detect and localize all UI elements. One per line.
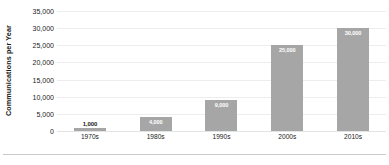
bar-value-label: 30,000 bbox=[345, 30, 362, 36]
y-axis-tick-label: 15,000 bbox=[33, 76, 54, 83]
x-axis-tick-label: 1990s bbox=[189, 133, 255, 147]
bar-slot: 30,000 bbox=[320, 0, 386, 131]
bar-value-label: 1,000 bbox=[83, 121, 98, 127]
bar[interactable]: 4,000 bbox=[140, 117, 172, 131]
bar-slot: 25,000 bbox=[254, 0, 320, 131]
y-axis-tick-label: 35,000 bbox=[33, 8, 54, 15]
plot-area: 1,0004,0009,00025,00030,000 bbox=[57, 0, 386, 131]
y-axis-tick-label: 5,000 bbox=[36, 110, 54, 117]
bar-slot: 4,000 bbox=[123, 0, 189, 131]
y-axis-tick-label: 10,000 bbox=[33, 93, 54, 100]
y-axis-tick-label: 0 bbox=[50, 128, 54, 135]
x-axis-tick-label: 1970s bbox=[57, 133, 123, 147]
x-axis-tick-label: 1980s bbox=[123, 133, 189, 147]
bar-value-label: 4,000 bbox=[149, 119, 163, 125]
bar[interactable]: 1,000 bbox=[74, 128, 106, 131]
y-axis-tick-label: 30,000 bbox=[33, 25, 54, 32]
bar[interactable]: 25,000 bbox=[271, 45, 303, 131]
bottom-divider bbox=[3, 154, 386, 155]
bar-value-label: 9,000 bbox=[215, 102, 229, 108]
x-axis-tick-label: 2000s bbox=[254, 133, 320, 147]
bars-layer: 1,0004,0009,00025,00030,000 bbox=[57, 0, 386, 131]
x-axis-tick-label: 2010s bbox=[320, 133, 386, 147]
y-axis-tick-labels: 35,00030,00025,00020,00015,00010,0005,00… bbox=[16, 0, 56, 140]
y-axis-title: Communications per Year bbox=[0, 0, 16, 140]
y-axis-tick-label: 20,000 bbox=[33, 59, 54, 66]
bar-value-label: 25,000 bbox=[279, 47, 296, 53]
y-axis-tick-label: 25,000 bbox=[33, 42, 54, 49]
axis-baseline bbox=[57, 131, 386, 132]
x-axis-tick-labels: 1970s1980s1990s2000s2010s bbox=[57, 133, 386, 147]
y-axis-title-text: Communications per Year bbox=[4, 25, 13, 116]
bar[interactable]: 9,000 bbox=[205, 100, 237, 131]
bar-slot: 9,000 bbox=[189, 0, 255, 131]
bar-chart: Communications per Year 35,00030,00025,0… bbox=[0, 0, 389, 165]
bar[interactable]: 30,000 bbox=[337, 28, 369, 131]
bar-slot: 1,000 bbox=[57, 0, 123, 131]
